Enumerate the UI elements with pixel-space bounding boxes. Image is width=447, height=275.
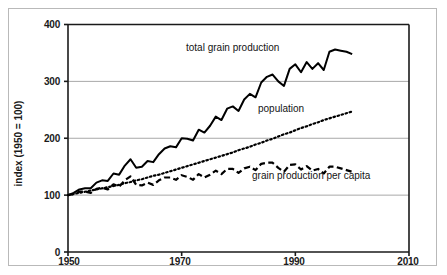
axis-ticks — [64, 25, 409, 257]
series-label-grain-production-per-capita: grain production per capita — [252, 170, 370, 181]
y-tick-100: 100 — [32, 190, 60, 201]
y-axis-title: index (1950 = 100) — [13, 74, 24, 214]
x-tick-2010: 2010 — [388, 256, 428, 267]
x-tick-1950: 1950 — [49, 256, 89, 267]
x-tick-1970: 1970 — [160, 256, 200, 267]
series-label-population: population — [258, 103, 304, 114]
x-tick-1990: 1990 — [274, 256, 314, 267]
series-label-total-grain-production: total grain production — [186, 42, 279, 53]
y-tick-200: 200 — [32, 133, 60, 144]
y-tick-300: 300 — [32, 76, 60, 87]
y-tick-400: 400 — [32, 19, 60, 30]
chart-figure: index (1950 = 100) 400 300 200 100 0 195… — [0, 0, 447, 275]
